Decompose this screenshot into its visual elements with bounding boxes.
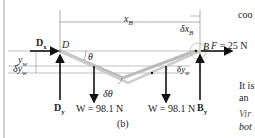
label-dyw-right: δyw <box>177 64 189 78</box>
side-text-3: an <box>239 92 248 103</box>
label-W-right: W = 98.1 N <box>148 104 195 114</box>
label-Dx: Dx <box>36 38 47 52</box>
side-text-2: It is <box>239 80 254 91</box>
label-dtheta: δθ <box>103 89 113 99</box>
label-Dy: Dy <box>54 103 65 117</box>
label-By: By <box>197 103 207 117</box>
label-theta: θ <box>88 52 93 62</box>
label-F: F = 25 N <box>211 41 247 51</box>
label-dxB: δxB <box>180 24 193 38</box>
label-B: B <box>203 42 209 52</box>
label-dyw-left: δyw <box>13 64 27 78</box>
side-text-5: bot <box>239 121 252 132</box>
label-D: D <box>62 40 69 50</box>
side-text-1: coo <box>238 9 252 20</box>
side-text-4: Vir <box>239 108 251 119</box>
label-xB: xB <box>124 14 133 28</box>
label-W-left: W = 98.1 N <box>76 104 123 114</box>
virtual-work-diagram: xB δxB D B Dx Dy By θ δθ yw δyw δyw F = … <box>0 0 255 138</box>
figure-caption: (b) <box>117 119 129 129</box>
